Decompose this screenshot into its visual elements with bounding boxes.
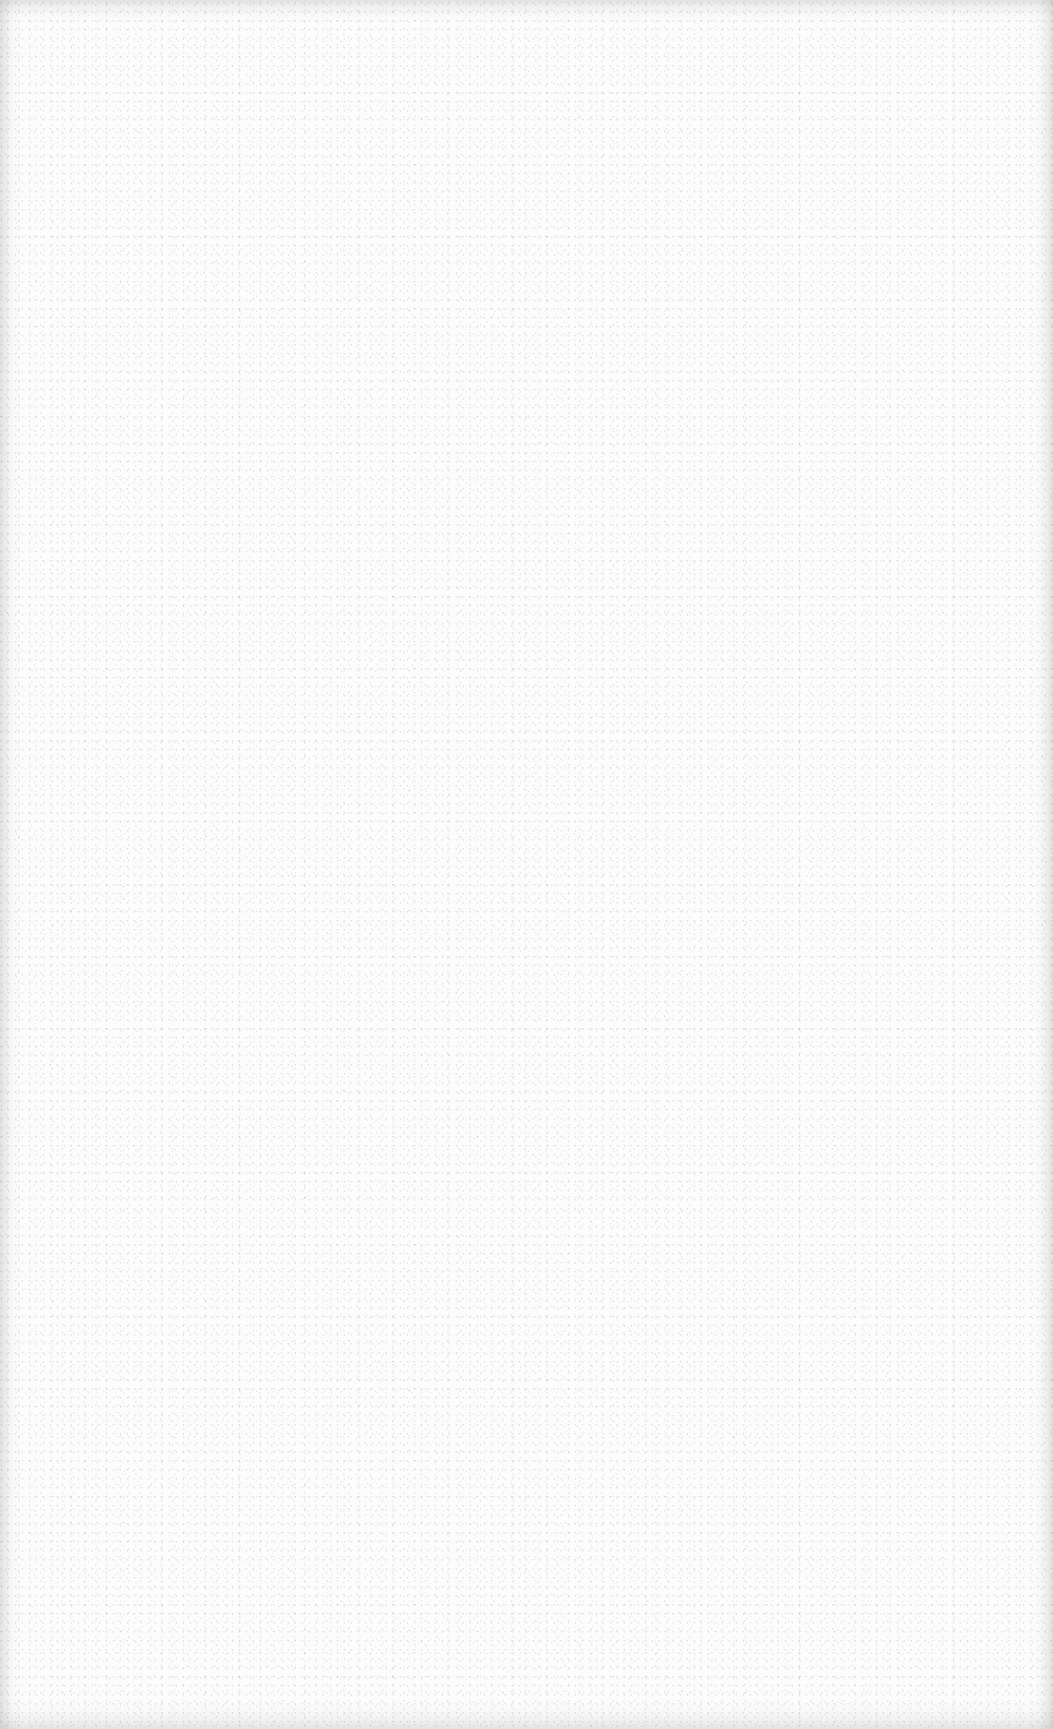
blank-paper-page (0, 0, 1053, 1729)
